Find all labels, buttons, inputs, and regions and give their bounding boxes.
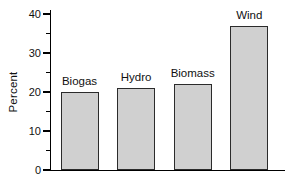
y-axis-major-tick	[43, 52, 50, 54]
y-axis-major-tick	[43, 130, 50, 132]
y-axis-major-tick	[43, 169, 50, 171]
plot-area: 010203040BiogasHydroBiomassWind	[50, 10, 285, 171]
bar-hydro	[117, 88, 155, 170]
y-axis-minor-tick	[46, 150, 50, 152]
y-axis-tick-label: 10	[9, 124, 41, 138]
bar-biomass	[174, 84, 212, 170]
y-axis-tick-label: 40	[9, 7, 41, 21]
bar-chart-figure: Percent 010203040BiogasHydroBiomassWind	[0, 0, 291, 190]
bar-label-wind: Wind	[204, 9, 291, 22]
bar-wind	[230, 26, 268, 170]
y-axis-minor-tick	[46, 33, 50, 35]
bar-label-biomass: Biomass	[148, 67, 238, 80]
y-axis-minor-tick	[46, 72, 50, 74]
y-axis-major-tick	[43, 91, 50, 93]
y-axis-minor-tick	[46, 111, 50, 113]
y-axis-tick-label: 30	[9, 46, 41, 60]
y-axis-tick-label: 0	[9, 163, 41, 177]
bar-biogas	[61, 92, 99, 170]
y-axis-major-tick	[43, 13, 50, 15]
